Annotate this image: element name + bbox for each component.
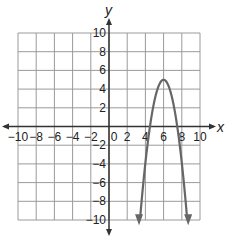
- x-tick-label: 10: [193, 130, 207, 144]
- x-tick-label: −6: [48, 130, 62, 144]
- y-tick-label: −6: [92, 176, 106, 190]
- x-axis-label: x: [216, 119, 225, 135]
- y-tick-label: 2: [99, 101, 106, 115]
- x-tick-label: 0: [111, 130, 118, 144]
- x-tick-label: 6: [160, 130, 167, 144]
- y-tick-label: −8: [92, 194, 106, 208]
- x-tick-label: −8: [29, 130, 43, 144]
- y-axis-up-arrow-icon: [106, 18, 112, 25]
- y-tick-label: 4: [99, 82, 106, 96]
- y-tick-label: 6: [99, 63, 106, 77]
- x-tick-label: −4: [66, 130, 80, 144]
- x-tick-label: −10: [8, 130, 29, 144]
- y-tick-label: −2: [92, 138, 106, 152]
- y-axis-label: y: [104, 2, 113, 18]
- axes: [2, 18, 216, 236]
- y-tick-label: 10: [93, 26, 107, 40]
- coordinate-plane: −10−8−6−4−20246810108642−2−4−6−8−10 x y: [0, 0, 226, 243]
- y-axis-down-arrow-icon: [106, 229, 112, 236]
- x-tick-label: 2: [124, 130, 131, 144]
- y-tick-label: 8: [99, 45, 106, 59]
- y-tick-label: −4: [92, 157, 106, 171]
- y-tick-label: −10: [86, 213, 107, 227]
- x-axis-right-arrow-icon: [209, 124, 216, 130]
